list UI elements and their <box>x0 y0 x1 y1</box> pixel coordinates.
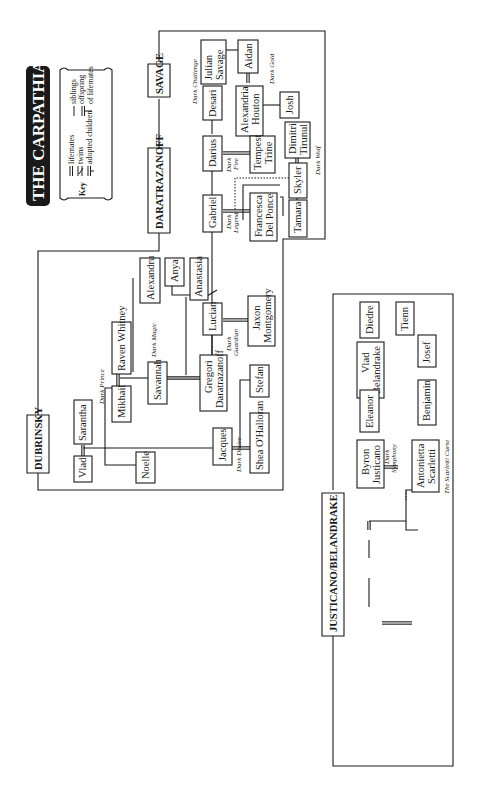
svg-text:Alexandru: Alexandru <box>145 255 156 300</box>
family-label-dubrinsky: DUBRINSKY <box>33 407 44 470</box>
svg-text:Dimitri: Dimitri <box>287 123 298 154</box>
svg-text:Daratrazanoff: Daratrazanoff <box>214 349 225 408</box>
svg-text:Antonietta: Antonietta <box>415 443 426 488</box>
person-diedre[interactable]: Diedre <box>360 302 379 338</box>
family-dubrinsky[interactable]: DUBRINSKY <box>27 407 49 473</box>
svg-text:Del Ponce: Del Ponce <box>264 193 275 237</box>
svg-text:Houton: Houton <box>250 93 261 125</box>
svg-text:Justicano: Justicano <box>371 445 382 484</box>
svg-text:Noelle: Noelle <box>140 451 151 479</box>
svg-text:Tempest: Tempest <box>252 134 263 170</box>
person-raven-whitney[interactable]: Raven Whitney <box>112 305 131 374</box>
key-twins: twins <box>76 147 85 164</box>
svg-text:Vlad: Vlad <box>77 457 88 478</box>
book-dark-symphony-2: Symphony <box>390 443 398 473</box>
person-jaxon-montgomery[interactable]: Jaxon Montgomery <box>248 287 275 346</box>
person-mikhail[interactable]: Mikhail <box>112 385 131 422</box>
person-anya[interactable]: Anya <box>165 258 184 286</box>
book-dark-desire: Dark Desire <box>235 437 243 473</box>
family-label-justicano: JUSTICANO/BELANDRAKE <box>328 494 339 632</box>
person-gabriel[interactable]: Gabriel <box>203 195 222 232</box>
svg-text:Mikhail: Mikhail <box>116 385 127 418</box>
family-label-daratrazanoff: DARATRAZANOFF <box>154 134 165 229</box>
person-savannah[interactable]: Savannah <box>148 358 167 404</box>
book-dark-guardian-2: Guardian <box>232 329 240 356</box>
person-josef[interactable]: Josef <box>418 335 436 367</box>
person-alexandru[interactable]: Alexandru <box>140 255 160 303</box>
person-jacques[interactable]: Jacques <box>213 428 232 465</box>
person-julian-savage[interactable]: Julian Savage <box>201 40 226 84</box>
book-dark-wolf: Dark Wolf <box>314 145 322 176</box>
family-daratrazanoff[interactable]: DARATRAZANOFF <box>148 134 170 233</box>
svg-text:Benjamin: Benjamin <box>421 379 432 421</box>
svg-text:Montgomery: Montgomery <box>262 287 273 343</box>
svg-text:Josh: Josh <box>284 95 295 114</box>
title-banner: THE CARPATHIANS <box>26 39 50 206</box>
key-label: Key <box>78 182 87 196</box>
person-byron-justicano[interactable]: Byron Justicano <box>357 440 384 488</box>
svg-text:Aidan: Aidan <box>243 43 254 69</box>
person-benjamin[interactable]: Benjamin <box>418 379 436 425</box>
svg-text:Eleanor: Eleanor <box>364 395 375 428</box>
person-josh[interactable]: Josh <box>280 92 299 118</box>
svg-text:Lucian: Lucian <box>207 301 218 331</box>
person-darius[interactable]: Darius <box>203 136 222 171</box>
person-antonietta-scarletti[interactable]: Antonietta Scarletti <box>412 440 439 492</box>
svg-text:Tirunul: Tirunul <box>298 124 309 155</box>
svg-text:Stefan: Stefan <box>254 365 265 393</box>
person-dimitri-tirunul[interactable]: Dimitri Tirunul <box>285 122 310 158</box>
key-offspring-2: of lifemates <box>86 66 95 104</box>
page-title: THE CARPATHIANS <box>29 39 48 201</box>
book-dark-fire-2: Fire <box>232 158 240 171</box>
person-desari[interactable]: Desari <box>203 86 222 120</box>
person-tienn[interactable]: Tienn <box>396 302 414 335</box>
svg-text:Francesca: Francesca <box>253 195 264 237</box>
person-tempest-trine[interactable]: Tempest Trine <box>250 134 275 173</box>
book-dark-challenge: Dark Challenge <box>191 59 199 105</box>
svg-text:Darius: Darius <box>207 139 218 167</box>
svg-text:Savage: Savage <box>214 49 225 80</box>
key-adopted: adopted children <box>85 110 94 164</box>
svg-text:Tienn: Tienn <box>399 306 410 331</box>
svg-text:Anastasia: Anastasia <box>193 256 204 297</box>
svg-text:Gregori: Gregori <box>203 360 214 393</box>
svg-text:Belandrake: Belandrake <box>371 346 382 394</box>
svg-text:Scarletti: Scarletti <box>426 449 437 484</box>
svg-text:Skyler: Skyler <box>292 166 303 194</box>
person-noelle[interactable]: Noelle <box>136 451 155 483</box>
svg-text:Julian: Julian <box>203 54 214 80</box>
family-label-savage: SAVAGE <box>154 53 165 94</box>
svg-text:Jacques: Jacques <box>217 428 228 461</box>
person-gregori-daratrazanoff[interactable]: Gregori Daratrazanoff <box>200 349 227 411</box>
family-justicano-belandrake[interactable]: JUSTICANO/BELANDRAKE <box>322 493 344 636</box>
svg-text:Savannah: Savannah <box>152 358 163 400</box>
svg-text:Tamara: Tamara <box>292 201 303 233</box>
svg-text:Vlad: Vlad <box>360 352 371 373</box>
person-shea-ohalloran[interactable]: Shea O'Halloran <box>250 400 269 473</box>
svg-text:Anya: Anya <box>169 259 180 282</box>
person-eleanor[interactable]: Eleanor <box>360 390 379 432</box>
person-francesca-del-ponce[interactable]: Francesca Del Ponce <box>250 193 277 241</box>
svg-text:Shea O'Halloran: Shea O'Halloran <box>254 400 265 470</box>
legend-key: Key lifemates twins adopted children sib… <box>60 66 112 200</box>
person-sarantha[interactable]: Sarantha <box>74 400 92 444</box>
person-lucian[interactable]: Lucian <box>203 301 222 335</box>
svg-text:Sarantha: Sarantha <box>77 404 88 441</box>
person-stefan[interactable]: Stefan <box>250 365 269 397</box>
person-vlad-dubrinsky[interactable]: Vlad <box>74 456 92 482</box>
key-offspring-1: offspring <box>77 75 86 104</box>
book-dark-prince: Dark Prince <box>98 369 106 405</box>
book-dark-gold: Dark Gold <box>268 53 276 85</box>
person-tamara[interactable]: Tamara <box>289 200 307 237</box>
person-skyler[interactable]: Skyler <box>289 163 307 198</box>
person-aidan[interactable]: Aidan <box>238 40 258 73</box>
family-savage[interactable]: SAVAGE <box>148 53 170 97</box>
person-anastasia[interactable]: Anastasia <box>190 256 208 300</box>
svg-text:Gabriel: Gabriel <box>207 196 218 228</box>
book-scarletti-curse: The Scarletti Curse <box>443 440 451 494</box>
book-dark-magic: Dark Magic <box>150 322 158 358</box>
svg-text:Desari: Desari <box>207 90 218 117</box>
svg-text:Josef: Josef <box>421 341 432 363</box>
book-dark-legend-2: Legend <box>232 212 240 234</box>
person-alexandria-houton[interactable]: Alexandria Houton <box>236 86 263 136</box>
